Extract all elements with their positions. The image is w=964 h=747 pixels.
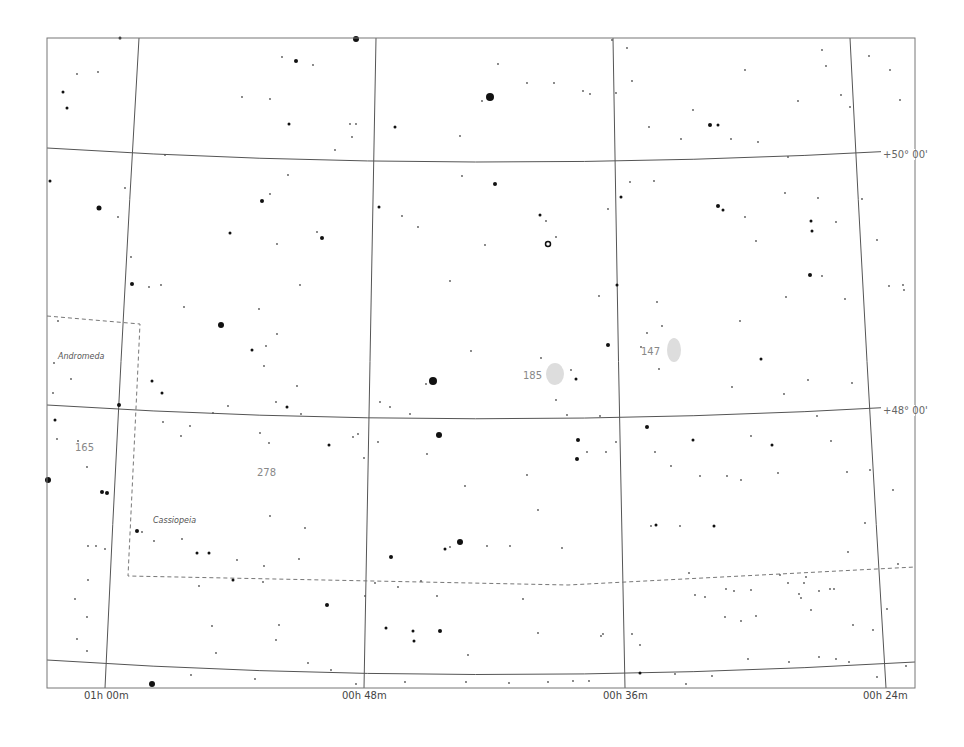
star: [864, 522, 866, 524]
star: [241, 96, 243, 98]
star: [162, 421, 164, 423]
star: [835, 658, 837, 660]
star: [325, 603, 329, 607]
star: [645, 425, 649, 429]
star: [650, 525, 652, 527]
star: [328, 444, 331, 447]
star: [263, 365, 265, 367]
star: [486, 545, 488, 547]
star: [429, 377, 437, 385]
star: [307, 662, 309, 664]
star: [299, 284, 301, 286]
star: [229, 232, 232, 235]
galaxy-marker[interactable]: [667, 338, 681, 362]
star: [897, 563, 899, 565]
star: [810, 220, 813, 223]
star: [459, 135, 461, 137]
star: [757, 141, 759, 143]
star: [86, 466, 88, 468]
star: [685, 683, 687, 685]
star: [688, 572, 690, 574]
star: [254, 678, 256, 680]
star: [286, 406, 289, 409]
star: [725, 588, 727, 590]
star: [602, 633, 604, 635]
star: [417, 226, 419, 228]
star: [785, 296, 787, 298]
star: [449, 546, 451, 548]
star: [259, 432, 261, 434]
star: [70, 378, 72, 380]
star: [364, 595, 366, 597]
star: [576, 438, 580, 442]
star: [117, 216, 119, 218]
star: [868, 55, 870, 57]
star: [797, 100, 799, 102]
star: [611, 39, 613, 41]
star: [97, 206, 102, 211]
star: [800, 597, 802, 599]
star: [787, 156, 789, 158]
star: [744, 216, 746, 218]
star: [351, 136, 353, 138]
star: [66, 107, 69, 110]
star: [607, 208, 609, 210]
object-label[interactable]: 185: [523, 370, 542, 381]
star: [835, 221, 837, 223]
star: [679, 525, 681, 527]
star: [457, 539, 463, 545]
star-chart[interactable]: 01h 00m00h 48m00h 36m00h 24m+50° 00'+48°…: [0, 0, 964, 747]
star: [750, 435, 752, 437]
star: [215, 652, 217, 654]
star: [639, 644, 641, 646]
star: [545, 220, 547, 222]
star: [104, 548, 106, 550]
object-label[interactable]: 147: [641, 346, 660, 357]
star: [600, 635, 602, 637]
star: [268, 442, 270, 444]
star: [87, 545, 89, 547]
star: [572, 680, 574, 682]
star: [484, 244, 486, 246]
star: [320, 236, 324, 240]
star: [674, 673, 676, 675]
star: [902, 284, 904, 286]
star: [586, 451, 588, 453]
galaxy-marker[interactable]: [546, 363, 564, 385]
star: [275, 639, 277, 641]
star: [892, 489, 894, 491]
star: [181, 538, 183, 540]
star: [357, 433, 359, 435]
star: [124, 187, 126, 189]
star: [211, 625, 213, 627]
star: [436, 595, 438, 597]
star: [905, 665, 907, 667]
star: [148, 286, 150, 288]
star: [783, 393, 785, 395]
star: [811, 230, 814, 233]
star: [378, 206, 381, 209]
star: [711, 675, 713, 677]
star: [810, 609, 812, 611]
star: [151, 380, 154, 383]
star: [817, 197, 819, 199]
star: [846, 471, 848, 473]
star: [852, 624, 854, 626]
star: [808, 273, 812, 277]
star: [100, 490, 104, 494]
star: [269, 515, 271, 517]
star: [413, 640, 416, 643]
chart-background: [0, 0, 964, 747]
star: [86, 650, 88, 652]
star: [726, 475, 728, 477]
object-label[interactable]: 165: [75, 442, 94, 453]
star: [777, 472, 779, 474]
star: [840, 94, 842, 96]
ra-axis-label: 00h 36m: [603, 690, 648, 701]
object-label[interactable]: 278: [257, 467, 276, 478]
star: [189, 425, 191, 427]
star: [493, 182, 497, 186]
star: [899, 99, 901, 101]
star: [615, 441, 617, 443]
star: [412, 630, 415, 633]
